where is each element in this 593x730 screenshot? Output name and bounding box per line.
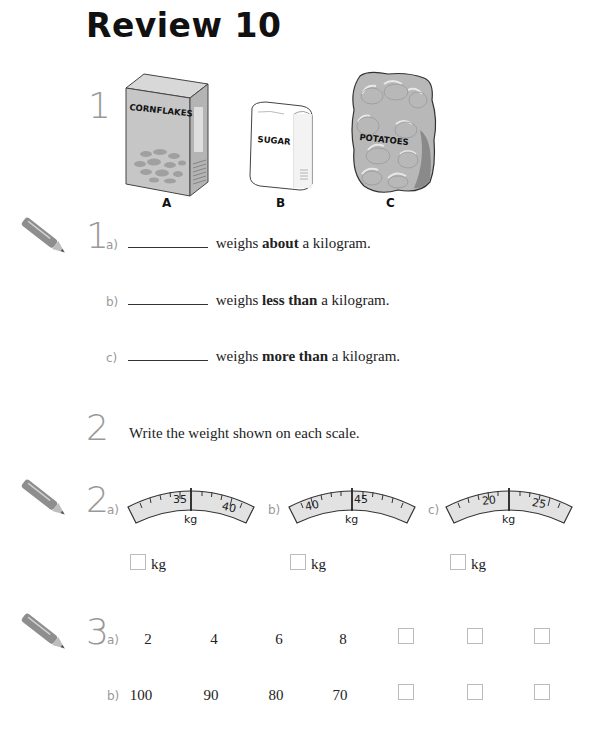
part-letter: b) — [107, 689, 119, 703]
sequence-value: 2 — [128, 631, 168, 648]
answer-blank[interactable] — [128, 235, 208, 248]
item-potatoes: POTATOES C — [348, 70, 438, 202]
item-label: C — [386, 196, 395, 210]
sequence-value: 80 — [256, 687, 296, 704]
answer-unit: kg — [311, 556, 326, 573]
answer-blank[interactable] — [128, 348, 208, 361]
part-letter: c) — [106, 351, 117, 365]
part-letter: b) — [106, 295, 118, 309]
scale-tick-label: 20 — [481, 493, 496, 507]
sequence-answer-box[interactable] — [534, 684, 550, 700]
part-letter: b) — [268, 503, 280, 517]
fill-in-sentence-c: weighs more than a kilogram. — [128, 348, 400, 365]
item-label: A — [162, 196, 171, 210]
pencil-icon — [20, 214, 70, 264]
part-letter: c) — [428, 503, 439, 517]
page-title: Review 10 — [86, 6, 281, 45]
scale-tick-label: 25 — [531, 496, 547, 511]
scale-unit: kg — [345, 513, 358, 526]
scale-tick-label: 35 — [173, 493, 187, 506]
sequence-answer-box[interactable] — [467, 628, 483, 644]
sequence-answer-box[interactable] — [398, 684, 414, 700]
scale-c: 20 25 kg — [444, 483, 574, 535]
pencil-icon — [20, 476, 70, 526]
question-number: 2 — [86, 410, 109, 446]
answer-unit: kg — [151, 556, 166, 573]
answer-box[interactable] — [450, 554, 466, 570]
scale-b: 40 45 kg — [287, 483, 417, 535]
sequence-value: 4 — [194, 631, 234, 648]
part-letter: a) — [106, 238, 118, 252]
answer-box[interactable] — [130, 554, 146, 570]
question-instruction: Write the weight shown on each scale. — [129, 425, 360, 442]
sequence-value: 90 — [191, 687, 231, 704]
answer-unit: kg — [471, 556, 486, 573]
fill-in-sentence-b: weighs less than a kilogram. — [128, 292, 390, 309]
sequence-value: 70 — [320, 687, 360, 704]
item-sugar: SUGAR B — [246, 100, 316, 196]
sequence-answer-box[interactable] — [534, 628, 550, 644]
item-cornflakes: CORNFLAKES A — [124, 72, 210, 201]
sequence-value: 8 — [323, 631, 363, 648]
exercise-number: 2 — [86, 482, 109, 518]
question-number: 1 — [88, 88, 111, 124]
scale-a: 35 40 kg — [126, 483, 256, 535]
cornflakes-box-icon — [124, 72, 210, 197]
sequence-answer-box[interactable] — [398, 628, 414, 644]
answer-blank[interactable] — [128, 292, 208, 305]
sequence-answer-box[interactable] — [467, 684, 483, 700]
pencil-icon — [20, 610, 70, 660]
sequence-value: 100 — [121, 687, 161, 704]
scale-unit: kg — [184, 513, 197, 526]
scale-tick-label: 45 — [354, 493, 368, 506]
answer-box[interactable] — [290, 554, 306, 570]
part-letter: a) — [107, 633, 119, 647]
part-letter: a) — [107, 503, 119, 517]
sequence-value: 6 — [259, 631, 299, 648]
exercise-number: 3 — [86, 614, 109, 650]
scale-unit: kg — [502, 513, 515, 526]
item-label: B — [276, 196, 285, 210]
fill-in-sentence-a: weighs about a kilogram. — [128, 235, 371, 252]
